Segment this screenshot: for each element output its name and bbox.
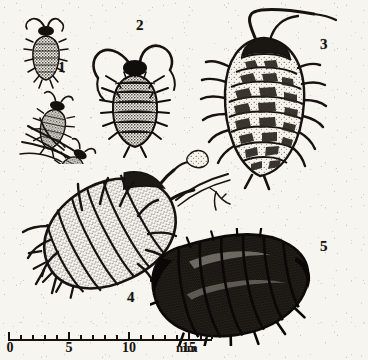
paper-grain-texture <box>0 0 368 360</box>
scale-label-10: 10 <box>122 341 136 355</box>
scale-tick-9 <box>116 335 118 339</box>
scale-tick-15 <box>188 332 190 339</box>
scale-tick-13 <box>164 335 166 339</box>
figure-2-young-woodlouse <box>86 34 206 159</box>
scale-tick-17 <box>211 335 213 339</box>
scale-unit-label: mm <box>176 341 198 354</box>
scale-tick-6 <box>80 335 82 339</box>
scale-tick-4 <box>56 335 58 339</box>
figure-3-banded-woodlouse <box>198 6 338 196</box>
scale-tick-2 <box>32 335 34 339</box>
scale-label-0: 0 <box>7 341 14 355</box>
figure-label-1: 1 <box>58 60 66 75</box>
scale-tick-8 <box>104 335 106 339</box>
figure-label-3: 3 <box>320 37 328 52</box>
scale-tick-16 <box>200 335 202 339</box>
scale-tick-3 <box>44 335 46 339</box>
scale-tick-5 <box>68 332 70 339</box>
scale-tick-7 <box>92 335 94 339</box>
scale-tick-0 <box>8 332 10 339</box>
figure-4-speckled-woodlouse <box>20 160 200 305</box>
scale-tick-14 <box>176 335 178 339</box>
figure-label-2: 2 <box>136 18 144 33</box>
debris-fragments <box>180 140 240 220</box>
scale-tick-1 <box>20 335 22 339</box>
scale-label-5: 5 <box>66 341 73 355</box>
scale-tick-10 <box>128 332 130 339</box>
scale-tick-12 <box>152 335 154 339</box>
illustration-plate: 1 2 3 4 5 0 5 10 15 mm <box>0 0 368 360</box>
debris-antenna-stray <box>172 170 232 210</box>
figure-5-dark-woodlouse <box>150 228 320 346</box>
figure-label-4: 4 <box>127 290 135 305</box>
figure-label-5: 5 <box>320 239 328 254</box>
figure-1-juvenile-woodlice <box>18 14 148 164</box>
scale-tick-11 <box>140 335 142 339</box>
